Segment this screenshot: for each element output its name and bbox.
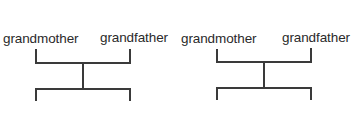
children-bar [216,87,312,89]
family-tree-right: grandmother grandfather [0,0,354,116]
grandfather-label: grandfather [282,31,350,45]
child-left-drop [216,87,218,100]
grandfather-connector [310,48,312,62]
grandmother-label: grandmother [181,32,256,46]
descent-stem [263,61,265,88]
child-right-drop [310,87,312,100]
